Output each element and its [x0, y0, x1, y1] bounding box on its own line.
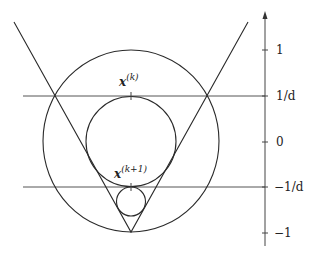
axis-arrow-icon [263, 11, 268, 19]
tick-label-0: 0 [276, 135, 284, 149]
tick-label-minus-1: −1 [274, 226, 292, 240]
point-label-x-k: x(k) [118, 72, 139, 89]
inner-circle [117, 187, 146, 216]
point-label-x-k-plus-1: x(k+1) [113, 164, 147, 181]
tick-label-1-over-d: 1/d [276, 89, 296, 103]
tick-label-minus-1-over-d: −1/d [274, 180, 304, 194]
tick-label-1: 1 [276, 43, 284, 57]
cone-v-lines [14, 22, 248, 232]
ellipsoid-method-diagram: 1 1/d 0 −1/d −1 x(k) x(k+1) [0, 0, 319, 258]
